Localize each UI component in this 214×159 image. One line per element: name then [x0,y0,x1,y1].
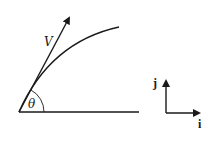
velocity-label: V [44,35,54,49]
i-unit-label: i [198,117,202,131]
j-unit-label: j [152,76,157,90]
projectile-diagram: V θ j i [0,0,214,159]
angle-theta-label: θ [28,97,36,111]
unit-vector-axes: j i [152,76,202,131]
